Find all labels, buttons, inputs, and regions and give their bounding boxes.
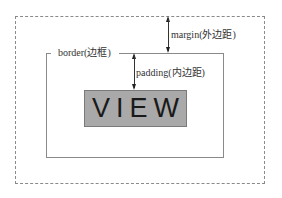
margin-arrow-down-icon: [166, 47, 170, 53]
padding-arrow-down-icon: [132, 84, 136, 90]
view-label: VIEW: [86, 95, 185, 122]
padding-label: padding(内边距): [136, 67, 205, 79]
border-label: border(边框): [58, 47, 111, 59]
view-box: VIEW: [84, 90, 187, 127]
margin-label: margin(外边距): [171, 29, 236, 41]
border-top-segment-left: [46, 53, 51, 54]
